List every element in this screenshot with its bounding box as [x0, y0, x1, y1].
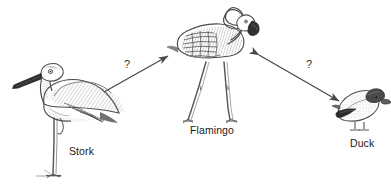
- node-label-duck: Duck: [350, 137, 374, 149]
- connector-label-stork-flamingo: ?: [124, 58, 130, 70]
- diagram-canvas: Stork Flamingo Duck ? ?: [0, 0, 391, 185]
- stork-bird-illustration: [13, 64, 126, 178]
- flamingo-bird-illustration: [167, 8, 259, 123]
- node-label-flamingo: Flamingo: [190, 124, 234, 136]
- duck-bird-illustration: [332, 89, 391, 130]
- diagram-illustration-layer: [0, 0, 391, 185]
- connector-label-flamingo-duck: ?: [306, 58, 312, 70]
- node-label-stork: Stork: [69, 145, 94, 157]
- connector-flamingo-duck: [259, 55, 339, 101]
